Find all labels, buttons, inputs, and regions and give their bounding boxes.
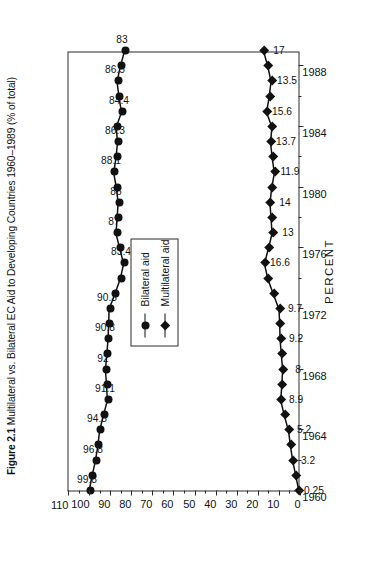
value-tick-label: 20 [246, 498, 258, 510]
value-tick-minor [268, 490, 269, 493]
point-value-label: 83.4 [111, 246, 131, 257]
year-tick-mark [298, 490, 303, 491]
point-value-label: 92 [97, 352, 108, 363]
value-tick-minor [162, 490, 163, 493]
legend-item-bilateral: Bilateral aid [134, 252, 154, 337]
value-tick-mark [257, 490, 258, 495]
value-tick-minor [78, 490, 79, 493]
value-tick-label: 80 [119, 498, 131, 510]
year-tick-label: 1960 [302, 490, 326, 502]
value-tick-label: 100 [71, 498, 89, 510]
data-point [96, 425, 104, 433]
value-tick-mark [236, 490, 237, 495]
point-value-label: 16.6 [270, 257, 290, 268]
value-tick-mark [278, 490, 279, 495]
figure-canvas: Figure 2.1 Multilateral vs. Bilateral EC… [0, 0, 374, 561]
legend-label-bilateral: Bilateral aid [139, 252, 150, 306]
value-tick-minor [289, 490, 290, 493]
year-tick-minor [298, 398, 301, 399]
point-value-label: 13.7 [276, 136, 296, 147]
value-tick-mark [152, 490, 153, 495]
value-tick-mark [215, 490, 216, 495]
year-tick-mark [298, 368, 303, 369]
value-tick-minor [141, 490, 142, 493]
point-value-label: 99.8 [76, 474, 96, 485]
value-tick-label: 40 [203, 498, 215, 510]
point-value-label: 90.8 [95, 322, 115, 333]
series-line-multilateral [263, 51, 298, 491]
value-tick-label: 90 [98, 498, 110, 510]
value-tick-mark [131, 490, 132, 495]
value-tick-label: 0 [294, 498, 300, 510]
value-axis-title: PERCENT [322, 51, 334, 491]
point-value-label: 86 [109, 185, 120, 196]
data-point [110, 167, 118, 175]
point-value-label: 91.1 [94, 382, 114, 393]
value-tick-mark [110, 490, 111, 495]
year-tick-minor [298, 95, 301, 96]
figure-title-text: Multilateral vs. Bilateral EC Aid to Dev… [6, 77, 17, 425]
point-value-label: 83 [116, 34, 127, 45]
value-tick-minor [205, 490, 206, 493]
year-tick-minor [298, 338, 301, 339]
value-tick-label: 50 [182, 498, 194, 510]
point-value-label: 88.1 [101, 155, 121, 166]
point-value-label: 86.3 [105, 125, 125, 136]
legend-item-multilateral: Multilateral aid [154, 239, 174, 337]
value-tick-minor [99, 490, 100, 493]
data-point [118, 107, 126, 115]
value-tick-mark [89, 490, 90, 495]
data-point [115, 198, 123, 206]
figure-title: Figure 2.1 Multilateral vs. Bilateral EC… [2, 6, 22, 546]
value-tick-label: 70 [140, 498, 152, 510]
point-value-label: 11.9 [280, 166, 299, 177]
plot-area: 99.896.894.891.19290.890.383.4878688.186… [67, 51, 299, 491]
data-point [102, 365, 110, 373]
figure-number: Figure 2.1 [6, 428, 17, 475]
value-tick-label: 30 [224, 498, 236, 510]
point-value-label: 13.5 [276, 75, 296, 86]
value-tick-mark [68, 490, 69, 495]
legend-label-multilateral: Multilateral aid [159, 239, 170, 306]
point-value-label: 94.8 [87, 413, 107, 424]
data-point [114, 137, 122, 145]
year-tick-mark [298, 429, 303, 430]
circle-marker-icon [141, 321, 149, 329]
point-value-label: 3.2 [301, 454, 315, 465]
point-value-label: 96.8 [82, 443, 102, 454]
point-value-label: 84.4 [109, 94, 129, 105]
value-tick-label: 110 [50, 498, 68, 510]
point-value-label: 90.3 [96, 291, 116, 302]
data-point [106, 304, 114, 312]
legend-line-bilateral [144, 313, 145, 337]
year-tick-minor [298, 216, 301, 217]
data-point [113, 228, 121, 236]
value-tick-minor [247, 490, 248, 493]
point-value-label: 13 [281, 227, 292, 238]
point-value-label: 87 [107, 216, 118, 227]
chart-legend: Bilateral aid Multilateral aid [130, 238, 178, 346]
series-line-bilateral [89, 51, 124, 491]
value-tick-minor [120, 490, 121, 493]
point-value-label: 86.5 [104, 64, 124, 75]
year-tick-mark [298, 186, 303, 187]
value-tick-minor [184, 490, 185, 493]
value-tick-label: 10 [267, 498, 279, 510]
point-value-label: 15.6 [272, 105, 292, 116]
legend-line-multilateral [164, 313, 165, 337]
data-point [104, 334, 112, 342]
point-value-label: 14 [279, 196, 290, 207]
year-tick-minor [298, 459, 301, 460]
data-point [92, 456, 100, 464]
point-value-label: 17 [273, 45, 284, 56]
diamond-marker-icon [159, 320, 169, 330]
year-tick-mark [298, 65, 303, 66]
value-tick-mark [173, 490, 174, 495]
year-tick-mark [298, 125, 303, 126]
year-tick-mark [298, 247, 303, 248]
chart-stage: 99.896.894.891.19290.890.383.4878688.186… [37, 18, 337, 543]
value-tick-mark [194, 490, 195, 495]
year-tick-mark [298, 307, 303, 308]
data-point [120, 258, 128, 266]
data-point [117, 274, 125, 282]
